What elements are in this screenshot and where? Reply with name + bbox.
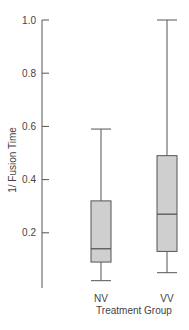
iqr-box: [91, 201, 111, 262]
y-axis-title: 1/ Fusion Time: [7, 127, 18, 193]
x-category-label: NV: [94, 293, 108, 304]
box-nv: [91, 129, 111, 281]
y-axis: 0.20.40.60.81.0: [22, 15, 49, 289]
x-category-label: VV: [160, 293, 174, 304]
y-tick-label: 0.6: [22, 121, 36, 132]
axis-labels: 1/ Fusion TimeNVVVTreatment Group: [7, 127, 174, 316]
y-tick-label: 0.2: [22, 227, 36, 238]
y-tick-label: 1.0: [22, 15, 36, 26]
iqr-box: [157, 156, 177, 252]
box-vv: [157, 20, 177, 273]
box-series: [91, 20, 177, 281]
y-tick-label: 0.4: [22, 174, 36, 185]
x-axis-title: Treatment Group: [96, 305, 172, 316]
box-plot: 0.20.40.60.81.0 1/ Fusion TimeNVVVTreatm…: [0, 0, 189, 330]
y-tick-label: 0.8: [22, 68, 36, 79]
